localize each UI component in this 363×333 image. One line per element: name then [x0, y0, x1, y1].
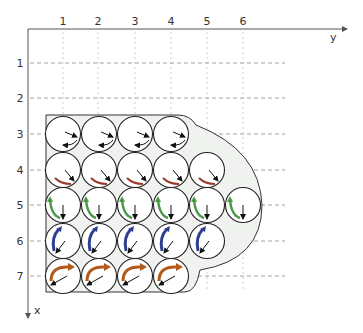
row-label-3: 3 — [17, 128, 24, 141]
row-label-2: 2 — [17, 92, 24, 105]
column-label-3: 3 — [132, 15, 139, 28]
column-label-2: 2 — [95, 15, 102, 28]
column-label-5: 5 — [204, 15, 211, 28]
grid-diagram: y x 1 2 3 4 5 6 1 2 3 4 5 6 7 — [0, 0, 363, 333]
row-label-7: 7 — [17, 270, 24, 283]
column-label-4: 4 — [168, 15, 175, 28]
column-label-1: 1 — [60, 15, 67, 28]
row-label-5: 5 — [17, 199, 24, 212]
diagram-canvas: y x 1 2 3 4 5 6 1 2 3 4 5 6 7 — [0, 0, 363, 333]
row-label-4: 4 — [17, 164, 24, 177]
column-labels: 1 2 3 4 5 6 — [60, 15, 247, 28]
row-label-1: 1 — [17, 57, 24, 70]
row-label-6: 6 — [17, 235, 24, 248]
column-label-6: 6 — [240, 15, 247, 28]
x-axis-label: x — [34, 304, 41, 317]
row-labels: 1 2 3 4 5 6 7 — [17, 57, 24, 283]
y-axis-label: y — [330, 31, 337, 44]
